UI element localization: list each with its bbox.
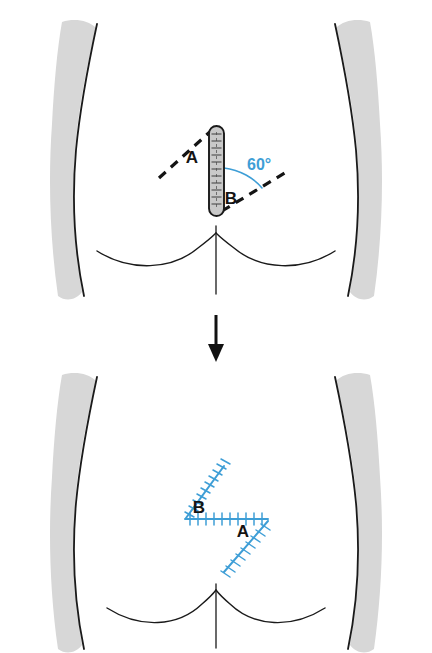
zplasty-suture-lines bbox=[185, 459, 270, 577]
progression-arrow bbox=[208, 315, 224, 362]
flap-label-a-preop: A bbox=[186, 148, 198, 167]
postoperative-panel: B A bbox=[50, 373, 382, 652]
preoperative-panel: A B 60° bbox=[50, 20, 382, 299]
right-gluteal-fold bbox=[216, 590, 325, 623]
zplasty-figure: A B 60° bbox=[0, 0, 432, 653]
flap-label-b-postop: B bbox=[193, 498, 205, 517]
flap-label-a-postop: A bbox=[237, 522, 249, 541]
right-gluteal-fold bbox=[216, 233, 335, 266]
flap-label-b-preop: B bbox=[225, 189, 237, 208]
limb-b-upper bbox=[185, 459, 230, 518]
vertical-scar bbox=[209, 126, 224, 216]
angle-label: 60° bbox=[247, 156, 271, 173]
left-gluteal-fold bbox=[97, 233, 216, 266]
left-gluteal-fold bbox=[107, 590, 216, 623]
